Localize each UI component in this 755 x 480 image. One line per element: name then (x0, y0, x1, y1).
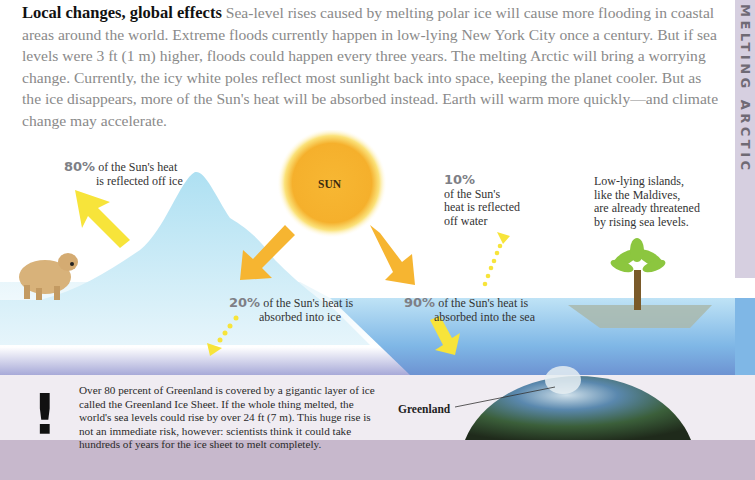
ice-absorb-label: 20% of the Sun's heat is absorbed into i… (229, 296, 353, 324)
water-reflect-label: 10% of the Sun's heat is reflected off w… (444, 173, 520, 228)
fact-text: Over 80 percent of Greenland is covered … (79, 384, 379, 452)
reflect-water-dotted-arrow (483, 232, 510, 286)
ice-reflect-label: 80% of the Sun's heat is reflected off i… (64, 160, 183, 188)
palm-leaves (609, 238, 667, 275)
sun-to-sea-arrow (370, 225, 415, 285)
intro-paragraph: Local changes, global effects Sea-level … (22, 2, 722, 131)
intro-body: Sea-level rises caused by melting polar … (22, 4, 718, 129)
reflect-ice-arrow (75, 190, 130, 248)
exclamation-icon: ! (32, 386, 58, 442)
intro-heading: Local changes, global effects (22, 3, 222, 22)
sun-label: SUN (318, 178, 341, 190)
earth-globe (455, 345, 705, 440)
greenland-label: Greenland (398, 403, 450, 415)
palm-trunk (634, 270, 641, 310)
water-absorb-label: 90% of the Sun's heat is absorbed into t… (404, 296, 535, 324)
islands-note: Low-lying islands, like the Maldives, ar… (594, 175, 700, 229)
